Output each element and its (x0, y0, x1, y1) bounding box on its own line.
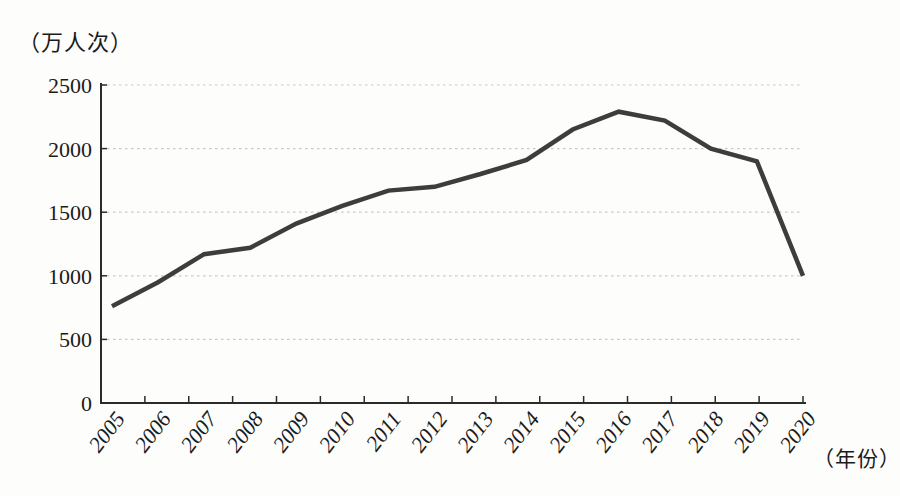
x-axis-tick-label-2016: 2016 (590, 407, 637, 457)
x-axis-tick-label-2011: 2011 (361, 407, 407, 456)
y-axis-tick-label-2000: 2000 (48, 137, 92, 162)
y-axis-tick-label-0: 0 (81, 391, 92, 416)
x-axis-tick-label-2019: 2019 (728, 407, 775, 457)
x-axis-unit-label: （年份） (813, 442, 900, 472)
x-axis-tick-label-2007: 2007 (175, 406, 222, 457)
x-axis-tick-label-2010: 2010 (313, 407, 360, 457)
x-axis-tick-label-2017: 2017 (636, 406, 683, 457)
x-axis-tick-label-2012: 2012 (406, 407, 453, 457)
x-axis-tick-label-2018: 2018 (682, 407, 729, 457)
data-line-visitors (112, 112, 803, 307)
x-axis-tick-label-2013: 2013 (452, 407, 499, 457)
x-axis-tick-label-2009: 2009 (267, 407, 314, 457)
x-axis-tick-label-2014: 2014 (498, 407, 545, 457)
y-axis-tick-label-1500: 1500 (48, 200, 92, 225)
x-axis-tick-label-2006: 2006 (129, 407, 176, 457)
x-axis-tick-label-2015: 2015 (544, 407, 591, 457)
line-chart: 0500100015002000250020052006200720082009… (0, 0, 900, 496)
x-axis-tick-label-2008: 2008 (221, 407, 268, 457)
chart-page: （万人次） 0500100015002000250020052006200720… (0, 0, 900, 496)
y-axis-tick-label-2500: 2500 (48, 73, 92, 98)
y-axis-tick-label-1000: 1000 (48, 264, 92, 289)
y-axis-tick-label-500: 500 (59, 327, 92, 352)
